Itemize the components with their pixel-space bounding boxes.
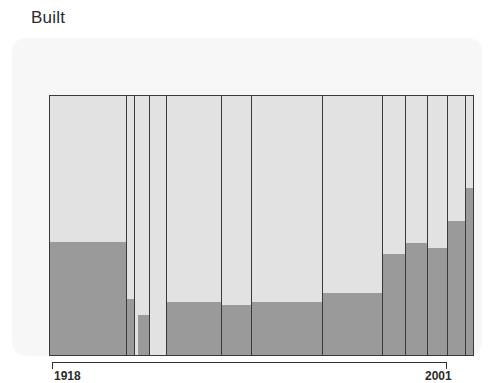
bar-segment: [138, 96, 151, 355]
bar-segment: [222, 96, 252, 355]
x-axis-label-start: 1918: [54, 369, 81, 383]
bar-fill: [222, 305, 251, 355]
x-axis-tick-end: [446, 362, 447, 369]
bar-fill: [466, 188, 473, 355]
bar-segment: [466, 96, 473, 355]
bar-segment: [323, 96, 384, 355]
bar-fill: [50, 242, 126, 355]
bar-segment: [428, 96, 448, 355]
plot-area: [49, 95, 474, 356]
bar-segment: [151, 96, 168, 355]
chart-card: 1918 2001: [12, 38, 482, 356]
bar-fill: [448, 221, 465, 355]
x-axis-label-end: 2001: [425, 369, 452, 383]
x-axis-line: [52, 362, 447, 363]
bar-segment: [50, 96, 127, 355]
bar-fill: [127, 299, 134, 355]
bar-fill: [428, 248, 447, 355]
page-title: Built: [31, 6, 65, 30]
bar-fill: [138, 315, 150, 355]
bar-segment: [252, 96, 323, 355]
bar-segment: [127, 96, 135, 355]
bar-segment: [383, 96, 406, 355]
bar-fill: [252, 302, 322, 355]
bar-segment: [167, 96, 222, 355]
bar-segment: [406, 96, 428, 355]
bar-fill: [383, 254, 405, 355]
bar-fill: [323, 293, 383, 355]
bar-fill: [167, 302, 221, 355]
x-axis-tick-start: [52, 362, 53, 369]
bar-segment: [448, 96, 466, 355]
bar-fill: [406, 243, 427, 355]
